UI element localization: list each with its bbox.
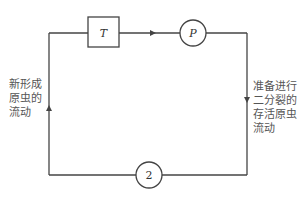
arrow-right-icon <box>150 30 156 36</box>
arrow-down-icon <box>244 97 250 103</box>
arrow-up-icon <box>46 105 52 111</box>
right-flow-label: 准备进行 二分裂的 存活原虫 流动 <box>253 80 297 136</box>
left-flow-label: 新形成 原虫的 流动 <box>9 78 42 120</box>
p-label: P <box>188 27 197 40</box>
t-label: T <box>100 27 109 40</box>
two-label: 2 <box>146 169 153 182</box>
